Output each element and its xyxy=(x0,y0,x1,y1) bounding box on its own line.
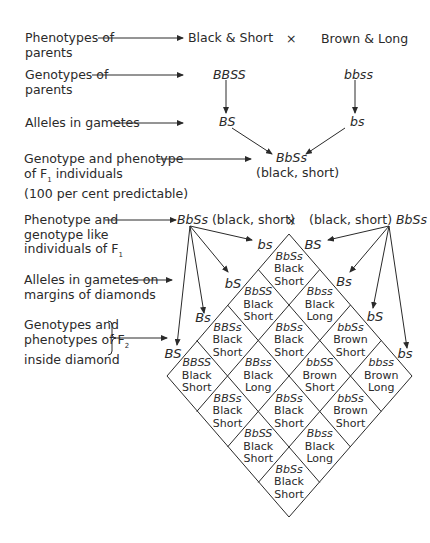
label-line: individuals of F1 xyxy=(24,242,123,262)
f2-cell-genotype: BbSs xyxy=(264,464,314,477)
f1-left-phenotype: (black, short) xyxy=(212,212,295,227)
label-f1: Genotype and phenotype of F1 individuals… xyxy=(24,152,188,201)
f1-cross-left: BbSs (black, short) xyxy=(177,213,295,228)
cross-symbol: × xyxy=(286,32,296,47)
f2-cell: BbSsBlackShort xyxy=(264,322,314,360)
gamete-left-0: bs xyxy=(257,237,272,252)
label-line: Phenotypes of xyxy=(25,31,114,46)
parent1-gamete: BS xyxy=(219,115,236,130)
f2-cell: BbSSBlackShort xyxy=(233,286,283,324)
f2-cell-genotype: bbss xyxy=(356,357,406,370)
f2-cell-genotype: BBSs xyxy=(203,393,253,406)
f2-cell: bbSsBrownShort xyxy=(326,393,376,431)
f2-cell: bbSsBrownShort xyxy=(326,322,376,360)
label-line: of F1 individuals xyxy=(24,167,188,187)
f2-cell: bbSSBrownShort xyxy=(295,357,345,395)
label-line: inside diamond xyxy=(24,353,129,368)
f2-cell-genotype: BbSS xyxy=(233,286,283,299)
f2-cell: BBSsBlackShort xyxy=(203,322,253,360)
f1-right-genotype: BbSs xyxy=(396,212,427,227)
f2-cell-genotype: BbSs xyxy=(264,393,314,406)
f2-cell-genotype: BbSS xyxy=(233,428,283,441)
label-line: Genotypes and xyxy=(24,318,129,333)
f2-cell: BbSsBlackShort xyxy=(264,464,314,502)
label-line: Genotypes of xyxy=(25,68,108,83)
label-line: (100 per cent predictable) xyxy=(24,187,188,202)
label-f1-like: Phenotype and genotype like individuals … xyxy=(24,213,123,262)
parent1-phenotype: Black & Short xyxy=(188,31,273,46)
f2-cell-genotype: BbSs xyxy=(264,251,314,264)
label-f2: Genotypes and phenotypes of F2 inside di… xyxy=(24,318,129,367)
f2-cell-genotype: Bbss xyxy=(295,286,345,299)
f2-cell: BbssBlackLong xyxy=(295,286,345,324)
f1-left-genotype: BbSs xyxy=(177,212,208,227)
f2-cell-genotype: bbSs xyxy=(326,322,376,335)
label-line: parents xyxy=(25,46,114,61)
f1-right-phenotype: (black, short) xyxy=(309,212,392,227)
f2-cell: BbSsBlackShort xyxy=(264,251,314,289)
f1-cross-right: (black, short) BbSs xyxy=(309,213,427,228)
f2-cell-genotype: bbSs xyxy=(326,393,376,406)
f2-cell: BBssBlackLong xyxy=(233,357,283,395)
label-phenotypes-parents: Phenotypes of parents xyxy=(25,31,114,60)
f2-cell: BBSsBlackShort xyxy=(203,393,253,431)
f1-cross-symbol: × xyxy=(286,214,296,229)
label-line: Alleles in gametes on xyxy=(24,273,158,288)
parent1-genotype: BBSS xyxy=(213,68,246,83)
label-line: Phenotype and xyxy=(24,213,123,228)
f2-cell-genotype: BbSs xyxy=(264,322,314,335)
f1-phenotype: (black, short) xyxy=(256,166,339,181)
f2-cell-genotype: Bbss xyxy=(295,428,345,441)
f2-cell: bbssBrownLong xyxy=(356,357,406,395)
label-line: Genotype and phenotype xyxy=(24,152,188,167)
label-genotypes-parents: Genotypes of parents xyxy=(25,68,108,97)
f2-cell: BbSsBlackShort xyxy=(264,393,314,431)
f2-cell-genotype: BBss xyxy=(233,357,283,370)
parent2-phenotype: Brown & Long xyxy=(321,32,408,47)
gamete-right-0: BS xyxy=(304,237,321,252)
f2-cell-genotype: BBSs xyxy=(203,322,253,335)
parent2-genotype: bbss xyxy=(344,68,373,83)
label-alleles-margins: Alleles in gametes on margins of diamond… xyxy=(24,273,158,302)
f2-cell-genotype: bbSS xyxy=(295,357,345,370)
label-line: margins of diamonds xyxy=(24,288,158,303)
parent2-gamete: bs xyxy=(350,115,364,130)
label-line: genotype like xyxy=(24,228,123,243)
f1-genotype: BbSs xyxy=(276,151,307,166)
label-alleles-gametes: Alleles in gametes xyxy=(25,116,140,131)
f2-cell: BbssBlackLong xyxy=(295,428,345,466)
f2-cell: BBSSBlackShort xyxy=(172,357,222,395)
label-line: phenotypes of F2 xyxy=(24,333,129,353)
f2-cell-genotype: BBSS xyxy=(172,357,222,370)
f2-cell-length: Short xyxy=(264,489,314,502)
f2-cell: BbSSBlackShort xyxy=(233,428,283,466)
label-line: parents xyxy=(25,83,108,98)
